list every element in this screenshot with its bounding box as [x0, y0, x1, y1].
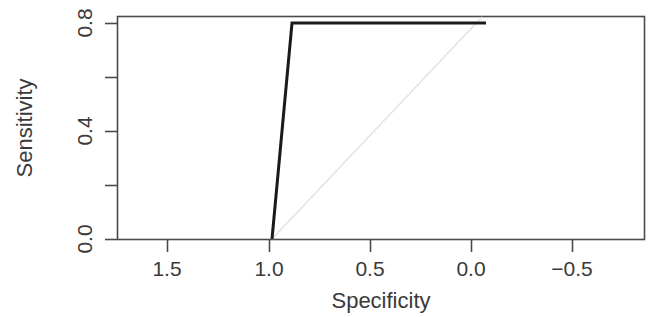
y-axis-title: Sensitivity [12, 78, 37, 177]
x-tick-label-0: 1.5 [152, 257, 181, 280]
x-tick-label-4: −0.5 [551, 257, 592, 280]
plot-frame [118, 17, 645, 240]
x-axis-ticks [168, 240, 573, 252]
roc-curve-line [272, 23, 486, 239]
roc-plot-figure: 1.5 1.0 0.5 0.0 −0.5 0.0 0.4 0.8 Specifi… [0, 0, 667, 317]
y-tick-label-2: 0.8 [73, 8, 96, 37]
x-tick-label-3: 0.0 [456, 257, 485, 280]
y-axis-ticks [105, 24, 117, 240]
x-axis-tick-labels: 1.5 1.0 0.5 0.0 −0.5 [152, 257, 592, 280]
x-tick-label-1: 1.0 [254, 257, 283, 280]
x-tick-label-2: 0.5 [355, 257, 384, 280]
y-tick-label-1: 0.4 [73, 116, 96, 146]
y-tick-label-0: 0.0 [73, 224, 96, 253]
x-axis-title: Specificity [331, 288, 430, 313]
y-axis-tick-labels: 0.0 0.4 0.8 [73, 8, 96, 253]
chance-diagonal-line [272, 17, 482, 239]
roc-plot-canvas: 1.5 1.0 0.5 0.0 −0.5 0.0 0.4 0.8 Specifi… [0, 0, 667, 317]
